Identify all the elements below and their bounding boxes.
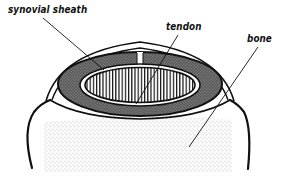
- label-tendon: tendon: [166, 21, 202, 32]
- label-bone: bone: [247, 33, 272, 44]
- leader-line-synovial-sheath: [43, 18, 104, 70]
- cross-section-illustration: [0, 0, 282, 182]
- label-synovial-sheath: synovial sheath: [8, 4, 87, 15]
- synovial-sheath-diagram: synovial sheath tendon bone: [0, 0, 282, 182]
